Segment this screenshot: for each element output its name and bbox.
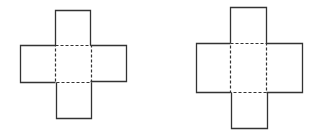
- top-face: [56, 11, 91, 46]
- left-face: [21, 46, 56, 83]
- right-face: [267, 44, 303, 93]
- left-cross-net: [21, 11, 127, 119]
- right-cross-net: [197, 8, 303, 129]
- dashed-center-face: [56, 46, 92, 83]
- left-face: [197, 44, 231, 93]
- diagram-canvas: [0, 0, 318, 139]
- top-face: [231, 8, 267, 44]
- dashed-center-face: [231, 44, 267, 93]
- bottom-face: [232, 93, 268, 129]
- bottom-face: [57, 83, 92, 119]
- right-face: [91, 46, 127, 82]
